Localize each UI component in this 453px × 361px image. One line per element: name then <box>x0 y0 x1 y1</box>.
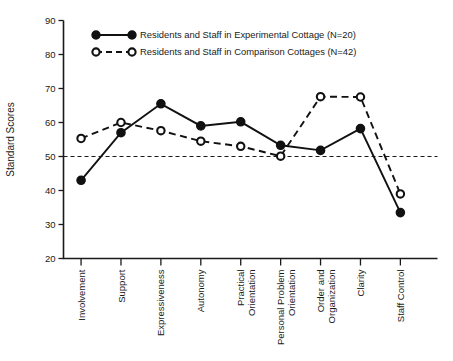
y-axis-tick-label: 60 <box>45 117 56 128</box>
data-point-0-7 <box>356 125 364 133</box>
x-axis-tick-labels: InvolvementSupportExpressivenessAutonomy… <box>76 269 406 345</box>
x-axis-tick-label: Involvement <box>76 269 87 321</box>
x-axis-tick-label: Orientation <box>246 270 257 316</box>
data-point-1-1 <box>117 119 124 126</box>
legend-marker-1-0 <box>92 48 99 55</box>
chart-figure: 2030405060708090 Standard Scores Involve… <box>0 0 453 361</box>
y-axis-tick-label: 30 <box>45 219 56 230</box>
legend-marker-0-0 <box>92 31 100 39</box>
data-point-0-5 <box>277 141 285 149</box>
data-series <box>77 93 405 217</box>
data-point-1-2 <box>157 127 164 134</box>
data-point-0-1 <box>117 129 125 137</box>
x-axis-tick-label: Orientation <box>286 270 297 316</box>
x-axis-tick-label: Staff Control <box>395 270 406 323</box>
y-axis-tick-label: 20 <box>45 253 56 264</box>
data-point-0-2 <box>157 100 165 108</box>
data-point-0-3 <box>197 122 205 130</box>
data-point-0-0 <box>77 176 85 184</box>
data-point-0-4 <box>237 118 245 126</box>
legend-marker-0-1 <box>128 31 136 39</box>
x-axis-tick-label: Personal Problem <box>275 269 286 345</box>
y-axis-tick-label: 90 <box>45 15 56 26</box>
y-axis-tick-label: 70 <box>45 83 56 94</box>
y-axis-tick-label: 50 <box>45 151 56 162</box>
x-axis-tick-label: Organization <box>326 270 337 324</box>
data-point-1-5 <box>277 152 284 159</box>
legend-label-0: Residents and Staff in Experimental Cott… <box>140 29 356 40</box>
data-point-0-8 <box>396 209 404 217</box>
data-point-1-7 <box>357 93 364 100</box>
data-point-1-3 <box>197 138 204 145</box>
standard-scores-line-chart: 2030405060708090 Standard Scores Involve… <box>0 0 453 361</box>
y-axis-tick-label: 40 <box>45 185 56 196</box>
x-axis-tick-label: Order and <box>315 270 326 313</box>
x-axis-tick-label: Practical <box>235 270 246 306</box>
data-point-1-4 <box>237 143 244 150</box>
chart-legend: Residents and Staff in Experimental Cott… <box>92 29 356 57</box>
x-axis-tick-label: Support <box>116 269 127 303</box>
x-axis-tick-label: Expressiveness <box>155 269 166 336</box>
data-point-0-6 <box>316 146 324 154</box>
y-axis-title-text: Standard Scores <box>5 102 16 177</box>
x-axis-tick-label: Clarity <box>355 269 366 296</box>
data-point-1-0 <box>77 135 84 142</box>
data-point-1-8 <box>397 190 404 197</box>
x-axis-tick-label: Autonomy <box>195 269 206 312</box>
y-axis-tick-label: 80 <box>45 49 56 60</box>
data-point-1-6 <box>317 93 324 100</box>
legend-marker-1-1 <box>128 48 135 55</box>
y-axis-title: Standard Scores <box>5 102 16 177</box>
legend-label-1: Residents and Staff in Comparison Cottag… <box>140 46 356 57</box>
